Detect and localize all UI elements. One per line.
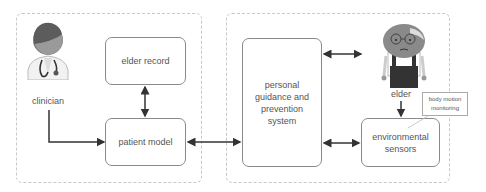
connector-arrows (0, 0, 486, 192)
clinician-to-patient-arrow (49, 110, 104, 142)
callout-leader-line (408, 116, 428, 128)
